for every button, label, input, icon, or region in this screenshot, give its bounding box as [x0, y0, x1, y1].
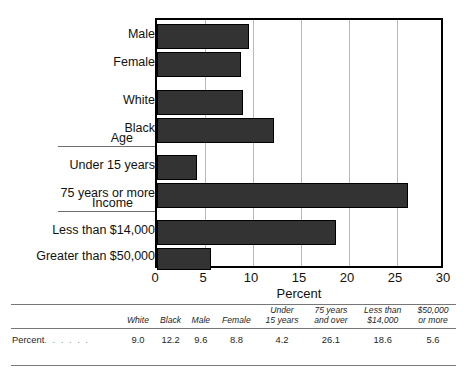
bars-layer — [157, 20, 441, 266]
x-axis-title: Percent — [155, 286, 443, 301]
bar-less-than-14-000 — [157, 220, 336, 245]
table-cell-value-2: 9.6 — [187, 329, 216, 352]
x-tick-label-30: 30 — [428, 270, 458, 285]
x-tick-label-20: 20 — [332, 270, 362, 285]
category-label-female: Female — [113, 55, 155, 69]
bar-chart-figure: MaleFemaleWhiteBlackUnder 15 years75 yea… — [0, 0, 467, 300]
table-column-header-1: Black — [155, 304, 187, 329]
bar-black — [157, 118, 274, 143]
table-corner-cell — [11, 304, 121, 329]
category-label-male: Male — [128, 27, 155, 41]
x-tick-label-5: 5 — [188, 270, 218, 285]
group-rule-age — [58, 146, 155, 147]
table-cell-value-6: 18.6 — [355, 329, 410, 352]
bar-male — [157, 24, 249, 49]
bar-female — [157, 52, 241, 77]
category-label-white: White — [123, 93, 155, 107]
table-cell-value-7: 5.6 — [410, 329, 456, 352]
table-cell-value-3: 8.8 — [215, 329, 258, 352]
table-cell-value-5: 26.1 — [306, 329, 355, 352]
plot-area — [155, 18, 443, 268]
x-tick-label-15: 15 — [284, 270, 314, 285]
table-cell-value-0: 9.0 — [121, 329, 154, 352]
bar-75-years-or-more — [157, 183, 408, 208]
category-label-greater-than-50-000: Greater than $50,000 — [36, 249, 155, 263]
table-column-header-6: Less than$14,000 — [355, 304, 410, 329]
table-top-rule — [11, 304, 456, 305]
bar-white — [157, 90, 243, 115]
x-tick-label-25: 25 — [380, 270, 410, 285]
x-tick-label-10: 10 — [236, 270, 266, 285]
x-tick-label-0: 0 — [140, 270, 170, 285]
table-row: Percent. . . . . . 9.012.29.68.84.226.11… — [11, 329, 456, 352]
table-column-header-4: Under15 years — [258, 304, 307, 329]
table-body: Percent. . . . . . 9.012.29.68.84.226.11… — [11, 329, 456, 352]
table-cell-value-4: 4.2 — [258, 329, 307, 352]
table-row-label: Percent. . . . . . — [11, 329, 121, 352]
group-rule-income — [58, 211, 155, 212]
table-column-header-5: 75 yearsand over — [306, 304, 355, 329]
data-table: WhiteBlackMaleFemaleUnder15 years75 year… — [11, 304, 456, 351]
table-header-row: WhiteBlackMaleFemaleUnder15 years75 year… — [11, 304, 456, 329]
bar-under-15-years — [157, 155, 197, 180]
table-column-header-3: Female — [215, 304, 258, 329]
table-cell-value-1: 12.2 — [155, 329, 187, 352]
table-column-header-0: White — [121, 304, 154, 329]
data-table-block: WhiteBlackMaleFemaleUnder15 years75 year… — [11, 304, 456, 366]
table-row-label-dots: . . . . . . — [44, 334, 89, 345]
bar-greater-than-50-000 — [157, 248, 211, 270]
table-header: WhiteBlackMaleFemaleUnder15 years75 year… — [11, 304, 456, 329]
table-bottom-rule — [11, 365, 456, 366]
table-column-header-7: $50,000or more — [410, 304, 456, 329]
category-label-less-than-14-000: Less than $14,000 — [52, 223, 155, 237]
category-label-under-15-years: Under 15 years — [70, 158, 155, 172]
group-label-age: Age — [111, 131, 155, 145]
group-label-income: Income — [92, 196, 155, 210]
table-column-header-2: Male — [187, 304, 216, 329]
